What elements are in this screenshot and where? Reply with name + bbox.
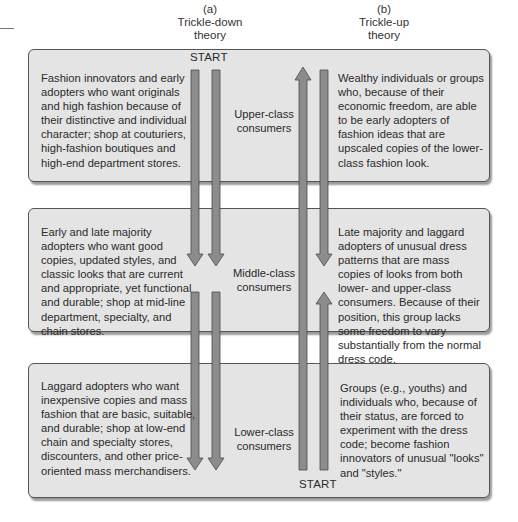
- lower-trickle-down-text: Laggard adopters who want inexpensive co…: [41, 379, 197, 478]
- class-label-line: Lower-class: [218, 425, 310, 439]
- class-label-line: consumers: [218, 121, 310, 135]
- upper-trickle-up-text: Wealthy individuals or groups who, becau…: [338, 71, 484, 170]
- class-label-line: Upper-class: [218, 107, 310, 121]
- middle-trickle-down-text: Early and late majority adopters who wan…: [41, 225, 197, 338]
- class-label-lower: Lower-class consumers: [218, 425, 310, 453]
- down-arrow-icon: [208, 70, 224, 266]
- class-label-upper: Upper-class consumers: [218, 107, 310, 135]
- start-label-top: START: [190, 51, 228, 63]
- lower-trickle-up-text: Groups (e.g., youths) and individuals wh…: [340, 381, 484, 480]
- class-label-line: consumers: [218, 439, 310, 453]
- start-label-bottom: START: [299, 478, 337, 490]
- up-arrow-icon: [316, 292, 332, 470]
- class-label-line: Middle-class: [218, 266, 310, 280]
- middle-trickle-up-text: Late majority and laggard adopters of un…: [338, 225, 484, 366]
- class-label-middle: Middle-class consumers: [218, 266, 310, 294]
- down-arrow-icon: [316, 70, 332, 266]
- class-label-line: consumers: [218, 280, 310, 294]
- upper-trickle-down-text: Fashion innovators and early adopters wh…: [41, 71, 197, 170]
